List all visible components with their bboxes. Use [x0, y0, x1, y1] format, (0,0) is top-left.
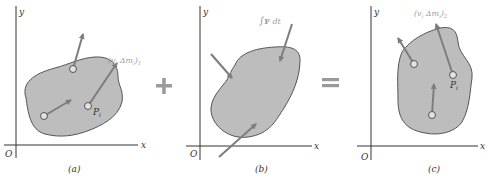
caption-b: (b) — [255, 164, 268, 174]
momentum-label-1: (vi Δmi)1 — [108, 56, 141, 66]
y-axis-label: y — [202, 7, 209, 17]
y-axis-label: y — [373, 7, 380, 17]
impulse-label: ∫F dt — [259, 15, 282, 26]
panel-c: y x O Pi (vi Δmi)2 (c) — [357, 6, 485, 174]
particle-pi — [85, 103, 92, 110]
x-axis-label: x — [141, 140, 146, 150]
x-axis-label: x — [314, 141, 319, 151]
impulse-momentum-diagram: y x O Pi (vi Δmi)1 (a) y x O ∫F dt (b) — [0, 0, 489, 181]
particle — [41, 113, 48, 120]
particle — [429, 112, 436, 119]
force-arrow — [211, 54, 232, 78]
plus-operator — [156, 78, 172, 94]
origin-label: O — [5, 149, 13, 159]
origin-label: O — [361, 152, 369, 162]
rigid-body — [398, 28, 473, 134]
caption-a: (a) — [68, 164, 81, 174]
panel-a: y x O Pi (vi Δmi)1 (a) — [4, 6, 146, 174]
equals-operator — [322, 78, 339, 87]
x-axis-label: x — [480, 141, 485, 151]
origin-label: O — [190, 149, 198, 159]
y-axis-label: y — [18, 7, 25, 17]
panel-b: y x O ∫F dt (b) — [186, 6, 319, 174]
particle — [411, 61, 418, 68]
particle-pi — [450, 72, 457, 79]
particle — [70, 66, 77, 73]
momentum-label-2: (vi Δmi)2 — [414, 9, 447, 19]
caption-c: (c) — [428, 164, 441, 174]
